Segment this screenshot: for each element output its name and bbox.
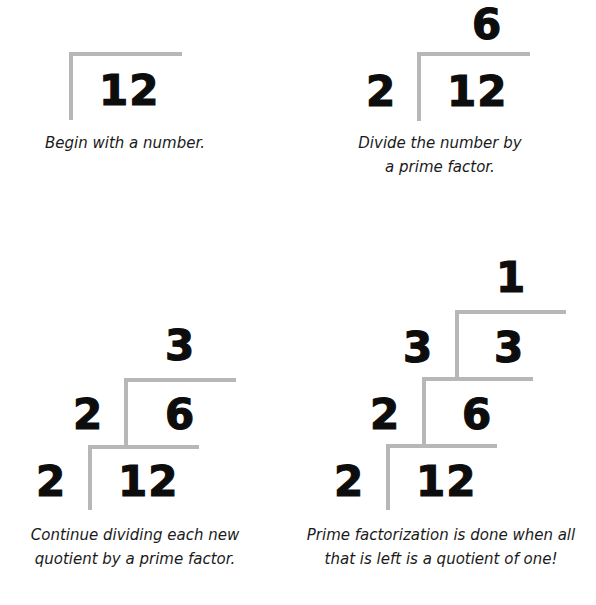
division-bracket-side: [124, 378, 128, 446]
division-bracket-side: [88, 445, 92, 510]
dividend: 12: [416, 461, 476, 503]
division-bracket-top: [386, 444, 497, 448]
caption-line: Prime factorization is done when all: [296, 523, 586, 547]
dividend: 6: [165, 394, 195, 436]
quotient: 3: [165, 325, 195, 367]
quotient: 6: [472, 4, 502, 46]
division-bracket-top: [417, 52, 530, 56]
division-bracket-top: [422, 377, 533, 381]
caption-line: that is left is a quotient of one!: [296, 547, 586, 571]
divisor: 2: [334, 461, 364, 503]
caption-line: quotient by a prime factor.: [10, 547, 260, 571]
division-bracket-side: [69, 52, 73, 120]
caption: Prime factorization is done when all tha…: [296, 523, 586, 571]
division-bracket-side: [422, 377, 426, 445]
divisor: 2: [370, 394, 400, 436]
divisor: 3: [403, 327, 433, 369]
caption-line: Continue dividing each new: [10, 523, 260, 547]
division-bracket-side: [386, 444, 390, 510]
division-bracket-side: [455, 310, 459, 378]
division-bracket-top: [88, 445, 199, 449]
quotient: 1: [496, 257, 526, 299]
dividend: 12: [447, 71, 507, 113]
divisor: 2: [36, 461, 66, 503]
caption-line: Begin with a number.: [20, 131, 230, 155]
caption: Continue dividing each new quotient by a…: [10, 523, 260, 571]
caption-line: Divide the number by: [330, 131, 550, 155]
dividend: 12: [118, 461, 178, 503]
caption: Divide the number by a prime factor.: [330, 131, 550, 179]
divisor: 2: [366, 71, 396, 113]
division-bracket-top: [69, 52, 182, 56]
dividend: 6: [462, 394, 492, 436]
division-bracket-side: [417, 52, 421, 121]
caption-line: a prime factor.: [330, 155, 550, 179]
divisor: 2: [73, 394, 103, 436]
dividend: 3: [494, 327, 524, 369]
division-bracket-top: [124, 378, 236, 382]
dividend: 12: [99, 70, 159, 112]
division-bracket-top: [455, 310, 566, 314]
caption: Begin with a number.: [20, 131, 230, 155]
